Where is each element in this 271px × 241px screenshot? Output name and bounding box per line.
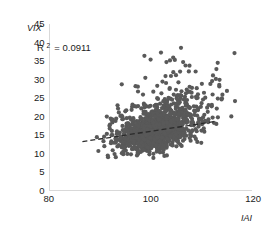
scatter-point — [169, 119, 173, 123]
scatter-point — [220, 93, 224, 97]
scatter-point — [175, 96, 179, 100]
x-axis-tick-labels: 80100120 — [44, 193, 262, 204]
scatter-point — [134, 104, 138, 108]
scatter-point — [151, 90, 155, 94]
scatter-point — [123, 109, 127, 113]
scatter-point — [174, 102, 178, 106]
scatter-point — [211, 92, 215, 96]
x-tick-label: 100 — [143, 193, 159, 204]
scatter-point — [132, 145, 136, 149]
scatter-point — [168, 107, 172, 111]
scatter-point — [107, 124, 111, 128]
scatter-point — [171, 70, 175, 74]
scatter-point — [205, 106, 209, 110]
scatter-point — [214, 77, 218, 81]
scatter-point — [148, 104, 152, 108]
scatter-point — [216, 115, 220, 119]
scatter-point — [105, 132, 109, 136]
scatter-point — [194, 69, 198, 73]
scatter-point — [159, 91, 163, 95]
scatter-point — [138, 115, 142, 119]
scatter-point — [175, 117, 179, 121]
scatter-point — [124, 127, 128, 131]
scatter-point — [149, 146, 153, 150]
scatter-point — [217, 78, 221, 82]
scatter-point — [131, 116, 135, 120]
scatter-point — [161, 121, 165, 125]
scatter-point — [168, 123, 172, 127]
scatter-point — [148, 57, 152, 61]
scatter-point — [146, 140, 150, 144]
scatter-point — [170, 143, 174, 147]
scatter-point — [143, 76, 147, 80]
scatter-point — [151, 141, 155, 145]
scatter-point — [174, 144, 178, 148]
y-tick-label: 35 — [34, 55, 45, 66]
scatter-point — [219, 97, 223, 101]
scatter-point — [137, 144, 141, 148]
scatter-point — [188, 136, 192, 140]
scatter-point — [190, 95, 194, 99]
scatter-point — [116, 106, 120, 110]
scatter-point — [136, 89, 140, 93]
scatter-point — [229, 114, 233, 118]
scatter-point — [184, 108, 188, 112]
scatter-point — [146, 112, 150, 116]
scatter-point — [141, 92, 145, 96]
scatter-point — [180, 144, 184, 148]
scatter-point — [128, 116, 132, 120]
scatter-point — [151, 152, 155, 156]
scatter-point — [187, 64, 191, 68]
scatter-point — [115, 129, 119, 133]
r-squared-value: = 0.0911 — [54, 42, 91, 53]
scatter-point — [120, 115, 124, 119]
scatter-point — [184, 134, 188, 138]
scatter-point — [211, 73, 215, 77]
scatter-point — [174, 88, 178, 92]
scatter-point — [202, 91, 206, 95]
scatter-point — [129, 152, 133, 156]
scatter-point — [163, 131, 167, 135]
scatter-point — [126, 121, 130, 125]
scatter-point — [120, 151, 124, 155]
scatter-point — [156, 135, 160, 139]
scatter-point — [137, 138, 141, 142]
y-tick-label: 25 — [34, 92, 45, 103]
y-axis-title: VIX — [27, 23, 43, 33]
x-tick-label: 80 — [44, 193, 55, 204]
x-tick-label: 120 — [245, 193, 261, 204]
scatter-point — [177, 112, 181, 116]
scatter-point — [172, 92, 176, 96]
scatter-point — [163, 74, 167, 78]
scatter-point — [155, 96, 159, 100]
scatter-point — [233, 99, 237, 103]
scatter-point — [113, 137, 117, 141]
scatter-point — [143, 103, 147, 107]
scatter-point — [165, 101, 169, 105]
scatter-point — [202, 126, 206, 130]
scatter-point — [102, 144, 106, 148]
scatter-point — [169, 74, 173, 78]
scatter-point — [175, 139, 179, 143]
scatter-point — [186, 113, 190, 117]
scatter-point — [182, 97, 186, 101]
scatter-point — [201, 97, 205, 101]
scatter-point — [168, 112, 172, 116]
scatter-point — [225, 89, 229, 93]
scatter-point — [232, 51, 236, 55]
plot-canvas: 454035302520151050 80100120 VIX IAI R 2 … — [0, 0, 271, 241]
scatter-point — [101, 139, 105, 143]
scatter-point — [110, 118, 114, 122]
scatter-point — [110, 129, 114, 133]
scatter-point — [146, 145, 150, 149]
scatter-point — [182, 113, 186, 117]
scatter-point — [161, 143, 165, 147]
scatter-point — [133, 128, 137, 132]
scatter-point — [136, 151, 140, 155]
scatter-point — [179, 94, 183, 98]
scatter-point — [117, 110, 121, 114]
scatter-point — [200, 82, 204, 86]
scatter-point — [159, 51, 163, 55]
scatter-point — [142, 54, 146, 58]
scatter-point — [130, 108, 134, 112]
